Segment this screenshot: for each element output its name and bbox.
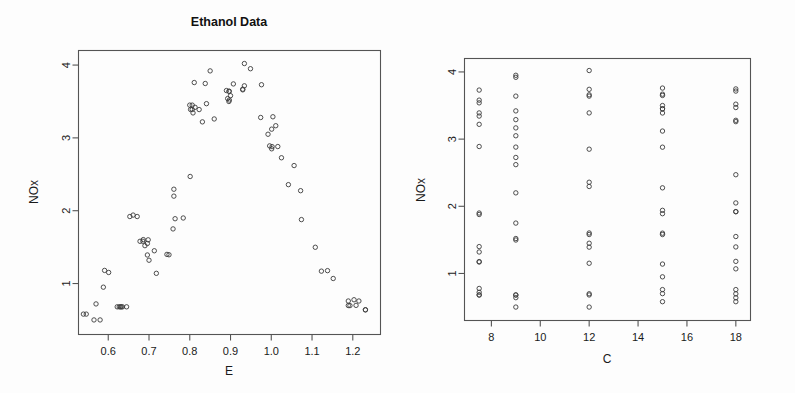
data-point	[354, 303, 358, 307]
data-point	[587, 111, 591, 115]
data-point	[212, 117, 216, 121]
data-point	[477, 250, 481, 254]
data-point	[660, 262, 664, 266]
scatter-plot-nox-vs-e: Ethanol Data 1234 0.60.70.80.91.01.11.2 …	[0, 0, 398, 393]
x-tick-label: 1.1	[304, 345, 319, 357]
y-axis-label-right: NOx	[414, 178, 428, 202]
data-point	[660, 86, 664, 90]
data-point	[192, 80, 196, 84]
data-point	[102, 268, 106, 272]
x-axis-label-right: C	[603, 352, 612, 366]
data-point	[325, 268, 329, 272]
scatter-panel-ethanol-c: 1234 81012141618 C NOx	[397, 0, 795, 393]
data-point	[477, 293, 481, 297]
data-point	[279, 156, 283, 160]
x-tick-label: 0.9	[223, 345, 238, 357]
y-tick-label: 2	[447, 203, 459, 209]
data-point	[477, 88, 481, 92]
data-point	[298, 188, 302, 192]
data-point	[172, 194, 176, 198]
data-point	[514, 293, 518, 297]
scatter-plot-nox-vs-c: 1234 81012141618 C NOx	[397, 0, 795, 393]
data-point	[346, 299, 350, 303]
data-points-left	[81, 61, 367, 322]
data-point	[660, 145, 664, 149]
data-point	[203, 81, 207, 85]
data-point	[587, 147, 591, 151]
data-point	[477, 144, 481, 148]
data-point	[204, 101, 208, 105]
data-point	[477, 98, 481, 102]
scatter-panel-ethanol-e: Ethanol Data 1234 0.60.70.80.91.01.11.2 …	[0, 0, 398, 393]
data-point	[188, 174, 192, 178]
x-axis-ticks-right: 81012141618	[488, 321, 742, 343]
x-tick-label: 1.0	[264, 345, 279, 357]
data-point	[200, 120, 204, 124]
data-point	[660, 299, 664, 303]
data-point	[587, 68, 591, 72]
data-point	[258, 115, 262, 119]
data-point	[587, 180, 591, 184]
data-point	[171, 227, 175, 231]
data-point	[660, 275, 664, 279]
x-tick-label: 14	[632, 331, 644, 343]
data-point	[152, 249, 156, 253]
data-point	[514, 117, 518, 121]
x-tick-label: 18	[730, 331, 742, 343]
y-tick-label: 2	[61, 208, 73, 214]
data-point	[319, 269, 323, 273]
data-point	[172, 187, 176, 191]
data-point	[231, 82, 235, 86]
y-tick-label: 4	[447, 69, 459, 75]
data-point	[734, 287, 738, 291]
data-point	[477, 244, 481, 248]
data-point	[147, 258, 151, 262]
y-axis-label-left: NOx	[27, 180, 41, 204]
y-axis-ticks-right: 1234	[447, 69, 465, 277]
data-point	[331, 276, 335, 280]
data-point	[274, 124, 278, 128]
data-point	[248, 67, 252, 71]
data-point	[587, 87, 591, 91]
data-point	[242, 61, 246, 65]
x-tick-label: 8	[488, 331, 494, 343]
x-tick-label: 0.8	[182, 345, 197, 357]
data-point	[98, 318, 102, 322]
y-tick-label: 1	[447, 270, 459, 276]
y-tick-label: 1	[61, 280, 73, 286]
data-point	[734, 259, 738, 263]
data-point	[313, 245, 317, 249]
x-tick-label: 16	[681, 331, 693, 343]
data-point	[271, 115, 275, 119]
data-point	[101, 285, 105, 289]
data-point	[514, 134, 518, 138]
data-point	[514, 155, 518, 159]
data-point	[208, 69, 212, 73]
data-point	[266, 132, 270, 136]
data-points-right	[477, 68, 738, 309]
x-tick-label: 10	[534, 331, 546, 343]
data-point	[587, 305, 591, 309]
x-tick-label: 1.2	[345, 345, 360, 357]
data-point	[352, 298, 356, 302]
data-point	[292, 163, 296, 167]
x-tick-label: 0.6	[101, 345, 116, 357]
data-point	[145, 253, 149, 257]
data-point	[154, 271, 158, 275]
data-point	[514, 191, 518, 195]
data-point	[514, 94, 518, 98]
x-tick-label: 12	[583, 331, 595, 343]
plot-title-left: Ethanol Data	[191, 15, 268, 29]
data-point	[92, 318, 96, 322]
data-point	[357, 299, 361, 303]
data-point	[734, 209, 738, 213]
data-point	[286, 182, 290, 186]
data-point	[514, 221, 518, 225]
data-point	[259, 83, 263, 87]
data-point	[734, 173, 738, 177]
data-point	[514, 162, 518, 166]
data-point	[276, 144, 280, 148]
data-point	[228, 93, 232, 97]
data-point	[514, 305, 518, 309]
y-axis-ticks-left: 1234	[61, 62, 79, 287]
